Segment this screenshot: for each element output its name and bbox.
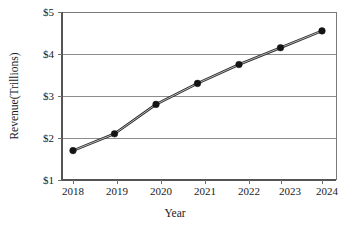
y-tick-label-2: $2 — [43, 132, 54, 144]
y-axis-title: Revenue(Trillions) — [8, 52, 21, 139]
chart-canvas: $5 $4 $3 $2 $1 2018 2019 2020 2021 2022 … — [0, 0, 349, 227]
x-tick-label-2020: 2020 — [150, 185, 173, 197]
y-tick-label-3: $3 — [43, 90, 55, 102]
x-tick-label-2018: 2018 — [62, 185, 85, 197]
data-point — [319, 28, 326, 35]
x-tick-label-2024: 2024 — [316, 185, 339, 197]
x-axis-title: Year — [164, 207, 185, 219]
data-point — [153, 101, 160, 108]
x-tick-label-2023: 2023 — [279, 185, 302, 197]
y-tick-label-5: $5 — [43, 6, 55, 18]
line-chart-figure: $5 $4 $3 $2 $1 2018 2019 2020 2021 2022 … — [0, 0, 349, 227]
y-tick-label-4: $4 — [43, 48, 55, 60]
x-tick-label-2022: 2022 — [238, 185, 260, 197]
y-tick-label-1: $1 — [43, 174, 54, 186]
data-point — [277, 44, 284, 51]
data-point — [70, 147, 77, 154]
x-tick-label-2019: 2019 — [106, 185, 129, 197]
data-point — [194, 80, 201, 87]
data-point — [236, 61, 243, 68]
x-tick-label-2021: 2021 — [194, 185, 216, 197]
data-point — [111, 131, 118, 138]
